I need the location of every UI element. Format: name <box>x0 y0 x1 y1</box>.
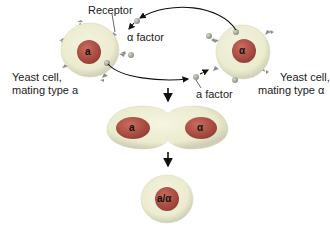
alpha-factor-label: α factor <box>127 31 164 44</box>
fusing-nucleus-a: a <box>129 121 135 134</box>
a-factor-label: a factor <box>196 88 233 101</box>
cell-alpha-label-line2: mating type α <box>258 84 324 97</box>
fusing-nucleus-alpha: α <box>197 121 203 134</box>
alpha-factor-path <box>140 7 236 30</box>
nucleus-label-a: a <box>85 45 91 58</box>
cell-a-label-line1: Yeast cell, <box>12 71 62 84</box>
cell-a-label-line2: mating type a <box>12 84 78 97</box>
a-factor-path <box>108 64 188 80</box>
diploid-nucleus: a/α <box>157 192 172 205</box>
nucleus-label-alpha: α <box>239 44 245 57</box>
cell-alpha-label-line1: Yeast cell, <box>280 71 330 84</box>
fusing-cells <box>107 106 228 149</box>
receptor-label: Receptor <box>88 4 133 17</box>
